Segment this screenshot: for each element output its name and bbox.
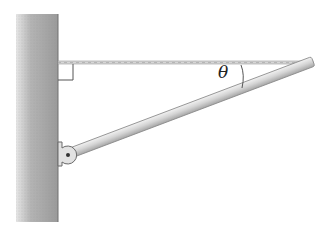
right-angle-marker <box>58 64 73 80</box>
boom <box>66 57 315 159</box>
horizontal-wire <box>58 61 313 64</box>
diagram-canvas <box>0 0 332 230</box>
angle-label-theta: θ <box>218 62 228 82</box>
wall <box>16 14 58 222</box>
hinge <box>58 142 77 166</box>
